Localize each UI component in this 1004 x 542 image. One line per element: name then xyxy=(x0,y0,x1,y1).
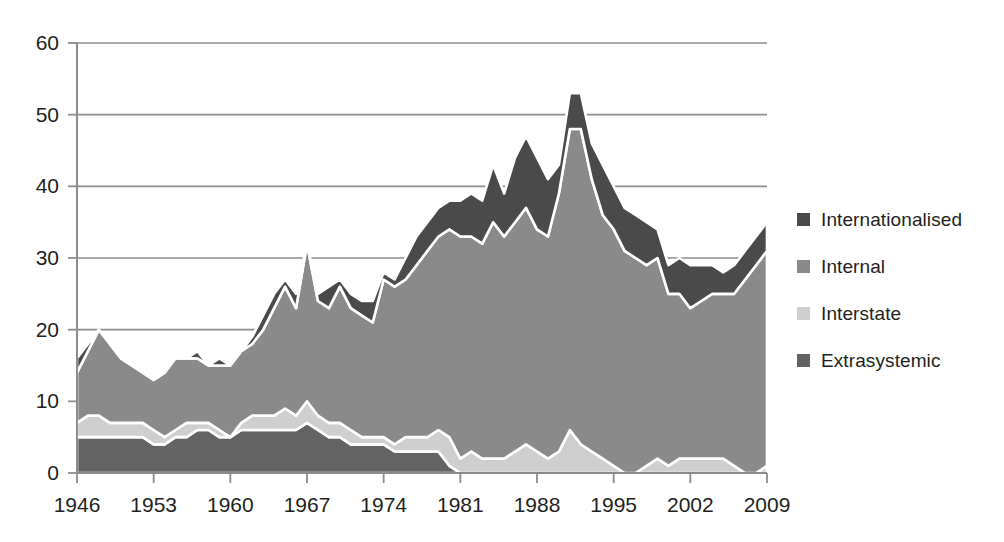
y-tick-label: 10 xyxy=(36,389,59,412)
x-tick-label: 1995 xyxy=(590,493,637,516)
y-tick-label: 60 xyxy=(36,31,59,54)
legend-label: Extrasystemic xyxy=(821,350,941,372)
x-axis-ticks xyxy=(77,473,767,483)
legend-item-internal[interactable]: Internal xyxy=(797,243,997,290)
legend-label: Internal xyxy=(821,256,885,278)
legend-swatch-icon xyxy=(797,213,810,226)
x-tick-label: 1981 xyxy=(437,493,484,516)
y-tick-label: 40 xyxy=(36,174,59,197)
legend-item-interstate[interactable]: Interstate xyxy=(797,290,997,337)
chart-legend: InternationalisedInternalInterstateExtra… xyxy=(797,196,997,384)
y-axis-ticks xyxy=(68,43,77,473)
legend-label: Interstate xyxy=(821,303,901,325)
legend-swatch-icon xyxy=(797,307,810,320)
y-axis-tick-labels: 0102030405060 xyxy=(36,31,59,484)
legend-item-extrasystemic[interactable]: Extrasystemic xyxy=(797,337,997,384)
y-tick-label: 0 xyxy=(47,461,59,484)
chart-page: 0102030405060 19461953196019671974198119… xyxy=(0,0,1004,542)
y-tick-label: 30 xyxy=(36,246,59,269)
y-tick-label: 50 xyxy=(36,103,59,126)
legend-swatch-icon xyxy=(797,260,810,273)
area-internal xyxy=(77,129,767,473)
x-axis-tick-labels: 1946195319601967197419811988199520022009 xyxy=(54,493,791,516)
y-tick-label: 20 xyxy=(36,318,59,341)
x-tick-label: 1974 xyxy=(360,493,407,516)
x-tick-label: 1988 xyxy=(514,493,561,516)
x-tick-label: 2002 xyxy=(667,493,714,516)
x-tick-label: 1960 xyxy=(207,493,254,516)
area-series-group xyxy=(77,93,767,473)
x-tick-label: 1967 xyxy=(284,493,331,516)
x-tick-label: 1953 xyxy=(130,493,177,516)
legend-item-internationalised[interactable]: Internationalised xyxy=(797,196,997,243)
x-tick-label: 2009 xyxy=(744,493,791,516)
legend-swatch-icon xyxy=(797,354,810,367)
legend-label: Internationalised xyxy=(821,209,962,231)
x-tick-label: 1946 xyxy=(54,493,101,516)
